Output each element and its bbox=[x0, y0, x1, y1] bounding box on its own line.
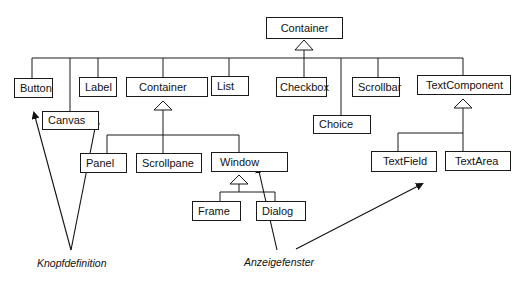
class-label: TextField bbox=[383, 156, 427, 167]
class-label: Window bbox=[220, 157, 259, 168]
class-label: Frame bbox=[198, 206, 230, 217]
class-label: Dialog bbox=[262, 206, 293, 217]
class-label: Button bbox=[20, 83, 52, 94]
class-label: Checkbox bbox=[280, 82, 329, 93]
class-label: Choice bbox=[319, 119, 353, 130]
class-box-list: List bbox=[211, 76, 249, 96]
class-box-textcomponent: TextComponent bbox=[417, 75, 511, 95]
class-box-label: Label bbox=[79, 77, 117, 97]
inheritance-triangle-window bbox=[230, 175, 248, 184]
class-box-button: Button bbox=[14, 78, 53, 98]
class-label: Container bbox=[281, 23, 329, 34]
class-diagram: Container Button Canvas Label Container … bbox=[0, 0, 525, 283]
class-box-checkbox: Checkbox bbox=[276, 77, 327, 97]
class-box-scrollbar: Scrollbar bbox=[352, 77, 400, 97]
class-box-choice: Choice bbox=[313, 115, 371, 134]
annotation-anzeigefenster: Anzeigefenster bbox=[244, 257, 314, 268]
class-box-canvas: Canvas bbox=[42, 111, 99, 130]
class-label: List bbox=[217, 81, 234, 92]
class-box-dialog: Dialog bbox=[256, 201, 306, 221]
annotation-knopfdefinition: Knopfdefinition bbox=[37, 258, 106, 269]
class-box-frame: Frame bbox=[192, 201, 241, 221]
class-label: Container bbox=[139, 82, 187, 93]
class-label: TextComponent bbox=[426, 80, 503, 91]
class-box-window: Window bbox=[211, 152, 288, 172]
class-label: Canvas bbox=[48, 115, 85, 126]
inheritance-triangle-container bbox=[154, 101, 172, 110]
class-box-textfield: TextField bbox=[371, 151, 437, 172]
connector-lines bbox=[0, 0, 525, 283]
class-label: Panel bbox=[86, 158, 114, 169]
class-box-panel: Panel bbox=[80, 153, 127, 173]
arrow-knopf-button bbox=[34, 113, 71, 250]
class-label: Label bbox=[85, 82, 112, 93]
arrow-knopf-label bbox=[71, 118, 97, 250]
class-label: Scrollbar bbox=[358, 82, 401, 93]
inheritance-triangle-root bbox=[295, 40, 313, 50]
inheritance-triangle-textcomponent bbox=[454, 99, 472, 108]
arrow-anzeige-textfield bbox=[296, 184, 422, 249]
class-box-textarea: TextArea bbox=[445, 151, 511, 171]
class-label: Scrollpane bbox=[142, 158, 194, 169]
class-box-scrollpane: Scrollpane bbox=[136, 153, 202, 173]
class-box-container: Container bbox=[126, 77, 208, 97]
class-label: TextArea bbox=[455, 156, 498, 167]
class-box-root-container: Container bbox=[266, 17, 343, 39]
